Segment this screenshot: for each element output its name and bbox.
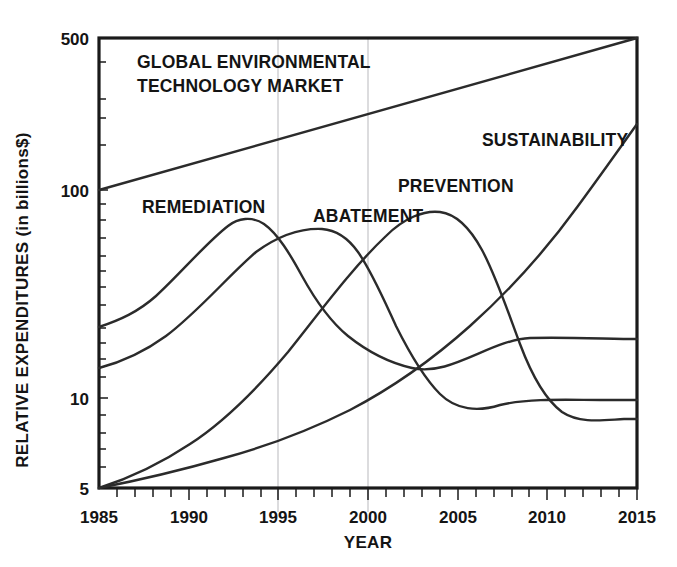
series-label-sustainability: SUSTAINABILITY: [482, 130, 628, 150]
series-label-remediation: REMEDIATION: [142, 197, 265, 217]
x-tick-label-2010: 2010: [528, 508, 566, 527]
x-axis-title: YEAR: [344, 533, 392, 552]
chart-title: GLOBAL ENVIRONMENTAL TECHNOLOGY MARKET: [137, 52, 371, 96]
y-tick-label-10: 10: [70, 390, 89, 409]
y-tick-label-500: 500: [61, 30, 89, 49]
series-label-prevention: PREVENTION: [398, 176, 514, 196]
series-label-abatement: ABATEMENT: [313, 206, 423, 226]
series-labels: REMEDIATION ABATEMENT PREVENTION SUSTAIN…: [142, 130, 628, 226]
x-axis-ticks: [117, 488, 637, 500]
x-tick-label-1985: 1985: [80, 508, 118, 527]
x-tick-label-1995: 1995: [259, 508, 297, 527]
y-tick-labels: 500 100 10 5: [61, 30, 89, 499]
gridlines: [278, 38, 368, 512]
x-tick-label-2015: 2015: [618, 508, 656, 527]
chart-figure: 500 100 10 5 1985 1990 1995 2000 2005 20…: [0, 0, 677, 567]
x-tick-label-2005: 2005: [439, 508, 477, 527]
line-chart: 500 100 10 5 1985 1990 1995 2000 2005 20…: [0, 0, 677, 567]
chart-title-line1: GLOBAL ENVIRONMENTAL: [137, 52, 371, 72]
x-tick-labels: 1985 1990 1995 2000 2005 2010 2015: [80, 508, 656, 527]
y-tick-label-5: 5: [80, 480, 89, 499]
chart-title-line2: TECHNOLOGY MARKET: [137, 76, 343, 96]
x-tick-label-1990: 1990: [170, 508, 208, 527]
x-tick-label-2000: 2000: [349, 508, 387, 527]
y-tick-label-100: 100: [61, 182, 89, 201]
y-axis-title: RELATIVE EXPENDITURES (in billions$): [13, 132, 32, 467]
